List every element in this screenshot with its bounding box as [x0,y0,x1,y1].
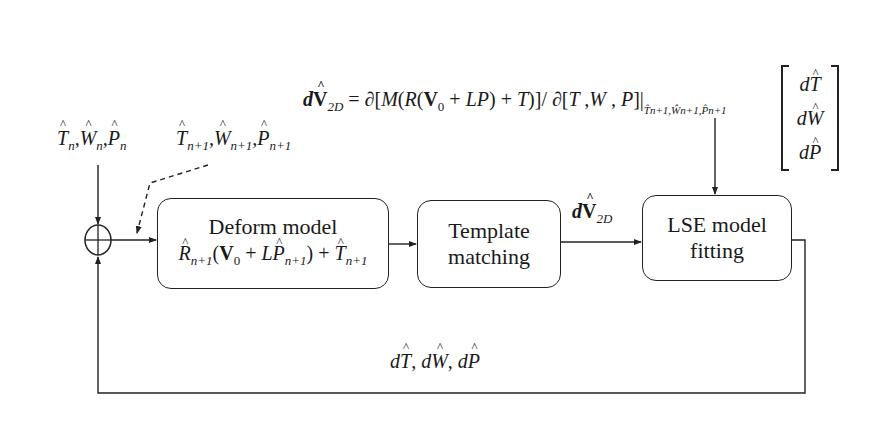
sub-n: n [68,138,75,153]
r: R [405,88,417,110]
feedback-label: dT, dW, dP [390,350,480,373]
m: M [381,88,398,110]
deform-model-block: Deform model Rn+1(V0 + LPn+1) + Tn+1 [157,198,389,289]
t: T [517,88,528,110]
dt-hat: dT [390,350,411,372]
sub-n: n [120,138,127,153]
deform-title: Deform model [209,214,338,240]
t-hat: T [176,127,187,150]
l: L [261,242,272,264]
matrix-row-dp: dP [783,135,837,169]
plus: + [240,242,261,264]
sub-n1: n+1 [187,138,209,153]
template-line2: matching [448,244,530,270]
paren: ( [398,88,405,110]
plus: + [444,88,465,110]
v-bold: V [219,242,233,264]
r-hat: R [179,240,191,266]
partial: )]/ ∂[ [528,88,568,110]
matrix-row-dt: dT [783,67,837,101]
t-hat: T [57,127,68,150]
delta-vector-matrix: dT dW dP [781,65,839,171]
vars: T ,W , P [568,88,633,110]
eval-sub: T̂n+1,Ŵn+1,P̂n+1 [644,104,727,116]
w-hat: W [214,127,231,150]
summing-junction-icon [85,225,111,255]
paren-plus: ) + [489,88,517,110]
lp: LP [466,88,489,110]
p-hat: P [257,127,269,150]
v-bold: V [423,88,437,110]
t-hat: T [335,240,346,266]
eq: = ∂[ [343,88,381,110]
sub-n1: n+1 [231,138,253,153]
sub-2d: 2D [327,99,343,114]
sub-n1: n+1 [270,138,292,153]
lse-line1: LSE model [667,212,767,238]
sub: n+1 [285,253,307,268]
estimate-label: Tn+1,Wn+1,Pn+1 [176,127,291,154]
matrix-row-dw: dW [783,101,837,135]
deform-formula: Rn+1(V0 + LPn+1) + Tn+1 [179,240,368,274]
template-matching-block: Template matching [417,200,561,288]
sub-n: n [96,138,103,153]
plus: + [313,242,334,264]
d: d [303,88,313,110]
p-hat: P [108,127,120,150]
dw-hat: dW [421,350,448,372]
jacobian-equation: dV2D = ∂[M(R(V0 + LP) + T)]/ ∂[T ,W , P]… [303,88,727,116]
w-hat: W [80,127,97,150]
lse-line2: fitting [690,238,744,264]
dp-hat: dP [458,350,480,372]
v-hat-bold: V [582,200,596,223]
lse-model-fitting-block: LSE model fitting [642,195,792,281]
sub: n+1 [346,253,368,268]
input-label: Tn,Wn,Pn [57,127,127,154]
sub: n+1 [191,253,213,268]
d: d [572,200,582,222]
dv2d-label: dV2D [572,200,612,227]
v-hat-bold: V [313,88,327,111]
template-line1: Template [448,218,530,244]
sub-2d: 2D [596,211,612,226]
p-hat: P [273,240,285,266]
sep: , [448,350,458,372]
eval-bar: ]| [633,88,644,110]
sep: , [411,350,421,372]
